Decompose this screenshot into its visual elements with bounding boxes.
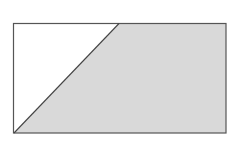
geometry-diagram xyxy=(0,0,239,142)
